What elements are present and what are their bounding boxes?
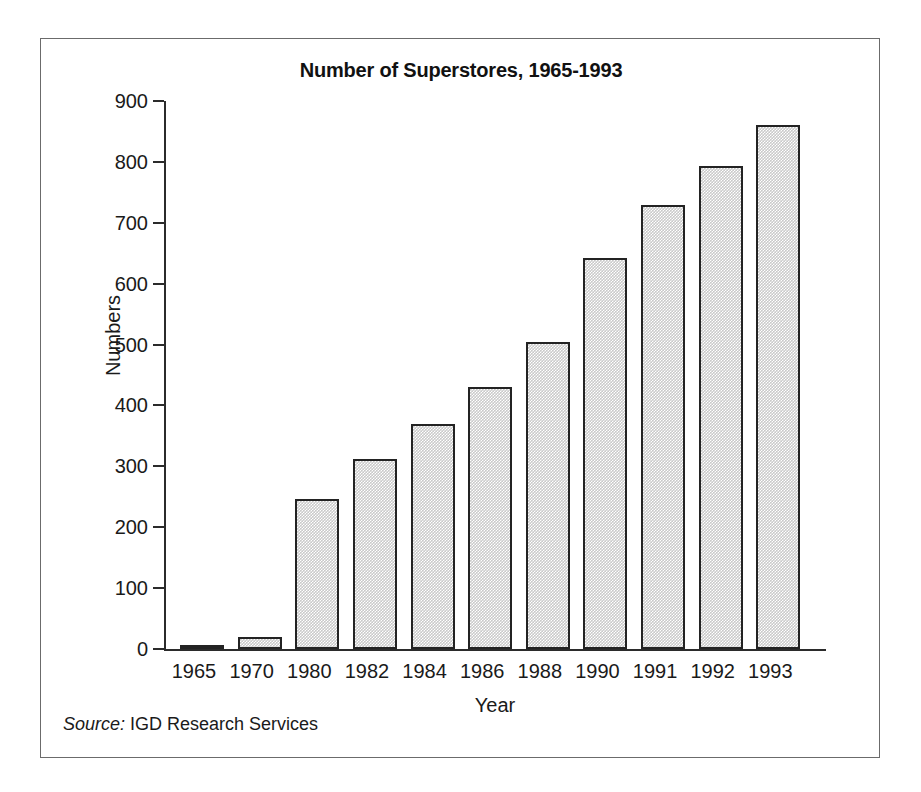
x-tick-label-1991: 1991 (625, 661, 685, 681)
y-tick-mark (153, 344, 164, 346)
bar-slot (238, 637, 282, 649)
bar-1970 (238, 637, 282, 649)
y-tick-mark (153, 526, 164, 528)
x-tick-label-1993: 1993 (740, 661, 800, 681)
bar-1991 (641, 205, 685, 649)
source-label: Source: (63, 714, 125, 734)
y-tick-label: 100 (115, 578, 148, 598)
y-tick-label: 300 (115, 456, 148, 476)
y-tick-mark (153, 100, 164, 102)
figure-frame: Number of Superstores, 1965-1993 9008007… (40, 38, 880, 758)
bar-1986 (468, 387, 512, 649)
y-tick-label: 700 (115, 212, 148, 232)
y-tick-label: 0 (137, 639, 148, 659)
source-text: IGD Research Services (125, 714, 318, 734)
bar-1990 (583, 258, 627, 649)
x-tick-label-1990: 1990 (567, 661, 627, 681)
source-note: Source: IGD Research Services (63, 714, 318, 735)
bar-1984 (411, 424, 455, 649)
bar-slot (699, 166, 743, 649)
y-tick-label: 200 (115, 517, 148, 537)
y-tick-mark (153, 465, 164, 467)
chart-title: Number of Superstores, 1965-1993 (41, 59, 881, 82)
y-tick-label: 900 (115, 91, 148, 111)
y-tick-mark (153, 587, 164, 589)
y-tick-mark (153, 283, 164, 285)
bar-slot (583, 258, 627, 649)
y-tick-mark (153, 222, 164, 224)
y-axis-title: Numbers (102, 256, 125, 416)
bar-slot (468, 387, 512, 649)
y-tick-mark (153, 648, 164, 650)
x-axis-line (164, 649, 826, 651)
y-tick-label: 800 (115, 151, 148, 171)
x-tick-label-1965: 1965 (164, 661, 224, 681)
bar-series (166, 101, 826, 649)
bar-slot (180, 645, 224, 649)
plot-area: 9008007006005004003002001000 19651970198… (164, 101, 826, 649)
bar-slot (411, 424, 455, 649)
x-tick-label-1984: 1984 (395, 661, 455, 681)
bar-1992 (699, 166, 743, 649)
x-tick-label-1988: 1988 (510, 661, 570, 681)
x-tick-label-1970: 1970 (222, 661, 282, 681)
bar-1965 (180, 645, 224, 649)
bar-1982 (353, 459, 397, 649)
bar-1988 (526, 342, 570, 649)
bar-slot (526, 342, 570, 649)
x-tick-label-1986: 1986 (452, 661, 512, 681)
x-tick-label-1980: 1980 (279, 661, 339, 681)
x-tick-label-1992: 1992 (683, 661, 743, 681)
y-tick-mark (153, 404, 164, 406)
y-tick-mark (153, 161, 164, 163)
bar-slot (295, 499, 339, 649)
bar-slot (756, 125, 800, 649)
bar-1980 (295, 499, 339, 649)
x-tick-label-1982: 1982 (337, 661, 397, 681)
bar-1993 (756, 125, 800, 649)
bar-slot (353, 459, 397, 649)
bar-slot (641, 205, 685, 649)
